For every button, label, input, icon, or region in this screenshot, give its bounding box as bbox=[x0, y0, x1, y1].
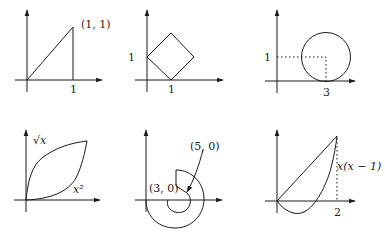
x-tick-label: 1 bbox=[70, 83, 77, 96]
outer-point-label: (5, 0) bbox=[190, 140, 220, 153]
panel-spiral: (5, 0) (3, 0) bbox=[135, 130, 222, 228]
inner-spiral bbox=[167, 193, 190, 213]
outer-spiral bbox=[146, 170, 204, 228]
panel-line-and-parabola: x(x − 1) 2 bbox=[265, 130, 381, 219]
y-tick-label: 1 bbox=[128, 51, 135, 64]
line-curve bbox=[277, 136, 337, 201]
panel-circle: 1 3 bbox=[264, 10, 355, 99]
triangle-curve bbox=[27, 27, 73, 80]
figure-canvas: (1, 1) 1 1 1 1 3 √x x² (5, 0) (3, 0) bbox=[0, 0, 385, 238]
x-tick-label: 1 bbox=[168, 83, 175, 96]
inner-point-label: (3, 0) bbox=[149, 182, 179, 195]
sqrt-label: √x bbox=[33, 134, 47, 147]
y-tick-label: 1 bbox=[264, 51, 271, 64]
parabola-curve bbox=[277, 136, 337, 214]
point-label: (1, 1) bbox=[81, 18, 111, 31]
panel-line-to-1-1: (1, 1) 1 bbox=[15, 10, 111, 96]
panel-diamond: 1 1 bbox=[128, 10, 223, 96]
diamond-shape bbox=[147, 33, 194, 80]
panel-sqrt-and-square: √x x² bbox=[14, 130, 100, 212]
curve-label: x(x − 1) bbox=[337, 160, 381, 173]
square-label: x² bbox=[73, 183, 84, 196]
x-tick-label: 2 bbox=[334, 206, 341, 219]
x-tick-label: 3 bbox=[323, 86, 330, 99]
